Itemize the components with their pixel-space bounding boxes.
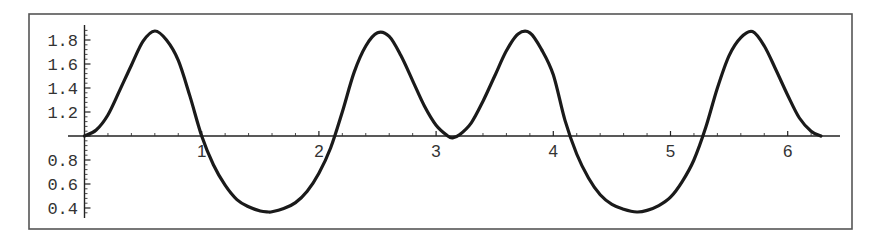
y-tick-label: 1.4 <box>47 80 78 99</box>
line-chart: 1.81.61.41.20.80.60.4 123456 <box>0 0 880 236</box>
y-tick-label: 1.2 <box>47 104 78 123</box>
x-tick-label: 5 <box>666 142 675 161</box>
function-curve <box>85 31 821 212</box>
plot-frame <box>29 14 852 229</box>
y-tick-label: 1.8 <box>47 32 78 51</box>
axes <box>68 25 840 218</box>
y-tick-label: 0.4 <box>47 200 78 219</box>
x-tick-labels: 123456 <box>197 142 792 161</box>
x-tick-label: 3 <box>431 142 440 161</box>
x-tick-label: 2 <box>314 142 323 161</box>
y-tick-labels: 1.81.61.41.20.80.60.4 <box>47 32 78 219</box>
y-tick-label: 0.8 <box>47 152 78 171</box>
x-tick-label: 4 <box>549 142 558 161</box>
x-tick-label: 6 <box>783 142 792 161</box>
y-tick-label: 0.6 <box>47 176 78 195</box>
y-tick-label: 1.6 <box>47 56 78 75</box>
